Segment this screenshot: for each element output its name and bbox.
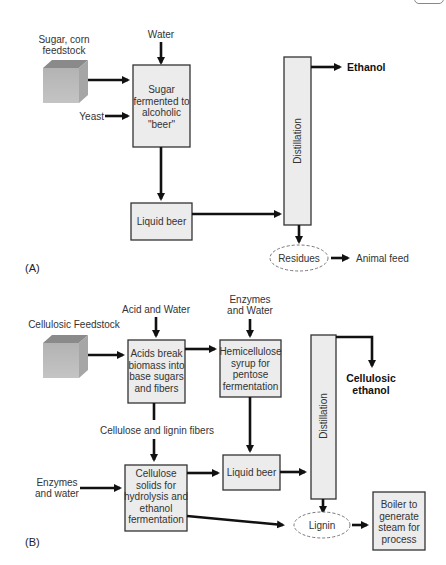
panel-b-label: (B) — [25, 536, 40, 548]
feedstock-label-line2: feedstock — [43, 45, 87, 56]
enzymes-water-left-line1: Enzymes — [36, 477, 77, 488]
boiler-text-4: process — [381, 534, 416, 545]
enzymes-water-top-line1: Enzymes — [229, 294, 270, 305]
cellulose-box-text-4: ethanol — [140, 503, 173, 514]
hemi-box-text-2: syrup for — [231, 358, 271, 369]
acids-box-text-3: base sugars — [129, 371, 183, 382]
fermentation-text-3: alcoholic — [142, 107, 181, 118]
cellulose-box-text-1: Cellulose — [135, 468, 177, 479]
distillation-text-b: Distillation — [318, 393, 329, 439]
cellulosic-feedstock-label: Cellulosic Feedstock — [28, 319, 121, 330]
fermentation-text-2: fermented to — [133, 96, 190, 107]
panel-a-label: (A) — [25, 262, 40, 274]
acids-box-text-2: biomass into — [128, 360, 185, 371]
cellulose-box-text-5: fermentation — [128, 514, 184, 525]
cellulosic-ethanol-arrow — [336, 337, 372, 366]
distillation-text-a: Distillation — [292, 118, 303, 164]
cellulose-box-text-3: hydrolysis and — [124, 491, 188, 502]
fermentation-text-1: Sugar — [148, 84, 175, 95]
hemi-box-text-3: pentose — [233, 369, 269, 380]
boiler-text-3: steam for — [378, 522, 420, 533]
cellulosic-ethanol-label-1: Cellulosic — [346, 372, 396, 384]
cellulose-box-text-2: solids for — [136, 480, 177, 491]
enzymes-water-left-line2: and water — [35, 488, 80, 499]
ethanol-process-diagram: Sugar, corn feedstock Water Yeast Sugar … — [0, 0, 446, 565]
animal-feed-label: Animal feed — [356, 253, 409, 264]
liquid-beer-text-b: Liquid beer — [227, 467, 277, 478]
panel-b: Cellulosic Feedstock Acid and Water Acid… — [25, 294, 425, 550]
panel-a: Sugar, corn feedstock Water Yeast Sugar … — [25, 29, 409, 274]
hemi-box-text-4: fermentation — [223, 381, 279, 392]
acids-box-text-1: Acids break — [130, 348, 183, 359]
yeast-label: Yeast — [79, 111, 104, 122]
enzymes-water-top-line2: and Water — [227, 305, 273, 316]
hemi-box-text-1: Hemicellulose — [219, 346, 282, 357]
boiler-text-2: generate — [379, 511, 419, 522]
liquid-beer-text-a: Liquid beer — [137, 216, 187, 227]
acids-box-text-4: and fibers — [135, 383, 179, 394]
ethanol-label: Ethanol — [347, 61, 386, 73]
cellulose-lignin-fibers-label: Cellulose and lignin fibers — [100, 425, 214, 436]
boiler-text-1: Boiler to — [381, 499, 418, 510]
sugar-corn-feedstock-cube-icon — [43, 60, 88, 103]
cellulose-to-lignin-arrow — [187, 516, 283, 525]
acid-water-label: Acid and Water — [122, 304, 191, 315]
lignin-text: Lignin — [309, 520, 336, 531]
cellulosic-ethanol-label-2: ethanol — [352, 384, 389, 396]
residues-text: Residues — [278, 253, 320, 264]
water-label: Water — [148, 29, 175, 40]
fermentation-text-4: "beer" — [148, 119, 176, 130]
cellulosic-feedstock-cube-icon — [43, 335, 88, 378]
feedstock-label-line1: Sugar, corn — [38, 34, 89, 45]
